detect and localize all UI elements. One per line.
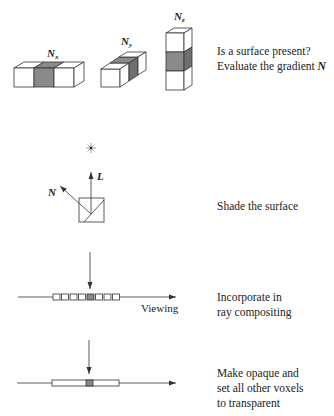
step-opaque-line-1: Make opaque and: [217, 366, 304, 381]
gradient-ny-figure: [101, 52, 146, 87]
step-opaque-line-3: to transparent: [217, 396, 304, 411]
gradient-symbol: N: [318, 60, 326, 72]
step-shade-text: Shade the surface: [217, 199, 298, 214]
step-opaque-line-2: set all other voxels: [217, 381, 304, 396]
viewing-label: Viewing: [141, 302, 179, 314]
ny-front: [101, 69, 120, 87]
step-gradient-line-1: Is a surface present?: [217, 44, 326, 59]
voxel-row: [53, 294, 120, 300]
light-source-icon: [86, 143, 96, 153]
step-gradient-text: Is a surface present? Evaluate the gradi…: [217, 44, 326, 74]
step-opaque-text: Make opaque and set all other voxels to …: [217, 366, 304, 411]
nx-label: Nx: [46, 47, 59, 61]
voxel: [79, 294, 86, 300]
voxel: [53, 294, 60, 300]
compositing-figure: [18, 252, 176, 300]
nz-front-bottom: [166, 71, 184, 90]
voxel: [96, 294, 103, 300]
step-composite-line-2: ray compositing: [217, 305, 291, 320]
step-gradient-line-2: Evaluate the gradient N: [217, 59, 326, 74]
step-composite-line-1: Incorporate in: [217, 290, 291, 305]
nx-front-left: [14, 68, 34, 87]
voxel: [113, 294, 120, 300]
step-shade-line-1: Shade the surface: [217, 199, 298, 214]
gradient-nx-figure: [14, 62, 84, 87]
opaque-voxel: [86, 380, 93, 386]
opaque-figure: [17, 340, 176, 386]
nx-front-shaded: [34, 68, 54, 87]
step-composite-text: Incorporate in ray compositing: [217, 290, 291, 320]
voxel-highlighted: [87, 294, 94, 300]
voxel: [70, 294, 77, 300]
normal-vector-label: N: [47, 186, 57, 198]
nz-front-top: [166, 33, 184, 52]
nz-front-shaded: [166, 52, 184, 71]
light-vector-label: L: [96, 170, 104, 182]
opaque-bar: [52, 380, 119, 386]
gradient-nz-figure: [166, 28, 192, 90]
voxel-square: [79, 198, 104, 222]
ny-label: Ny: [120, 35, 133, 49]
nx-front-right: [54, 68, 74, 87]
voxel: [104, 294, 111, 300]
nz-label: Nz: [173, 10, 185, 24]
voxel: [62, 294, 69, 300]
